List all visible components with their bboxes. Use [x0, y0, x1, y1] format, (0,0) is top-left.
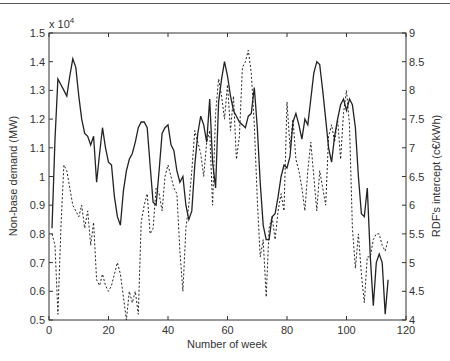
left-y-axis-label: Non-base demand (MW) [7, 116, 19, 236]
right-y-tick-label: 7 [409, 142, 415, 154]
y-axis-multiplier: x 104 [49, 16, 75, 30]
x-tick-label: 80 [281, 324, 293, 336]
dual-axis-line-chart: 0.50.60.70.80.911.11.21.31.41.5 44.555.5… [0, 0, 450, 361]
left-y-tick-label: 1.4 [30, 56, 45, 68]
left-y-tick-label: 1.2 [30, 113, 45, 125]
left-y-tick-label: 1.1 [30, 142, 45, 154]
left-y-tick-label: 0.8 [30, 228, 45, 240]
left-y-tick-label: 1 [39, 171, 45, 183]
x-tick-label: 40 [162, 324, 174, 336]
right-y-tick-label: 6 [409, 199, 415, 211]
x-tick-label: 100 [337, 324, 355, 336]
right-y-tick-label: 5.5 [409, 228, 424, 240]
right-y-tick-label: 9 [409, 27, 415, 39]
left-y-tick-label: 0.6 [30, 285, 45, 297]
x-axis-label: Number of week [187, 338, 268, 350]
left-y-tick-label: 1.5 [30, 27, 45, 39]
right-y-tick-label: 8 [409, 84, 415, 96]
left-y-tick-label: 1.3 [30, 84, 45, 96]
right-y-tick-label: 8.5 [409, 56, 424, 68]
left-y-tick-label: 0.9 [30, 199, 45, 211]
x-tick-label: 0 [46, 324, 52, 336]
right-y-tick-label: 7.5 [409, 113, 424, 125]
right-y-tick-label: 4.5 [409, 285, 424, 297]
right-y-tick-label: 6.5 [409, 171, 424, 183]
left-y-tick-label: 0.5 [30, 314, 45, 326]
right-y-axis-label: RDF's intercept (c€/kWh) [430, 115, 442, 238]
right-y-tick-label: 5 [409, 257, 415, 269]
x-tick-label: 120 [397, 324, 415, 336]
x-tick-label: 20 [102, 324, 114, 336]
x-tick-label: 60 [221, 324, 233, 336]
left-y-tick-label: 0.7 [30, 257, 45, 269]
